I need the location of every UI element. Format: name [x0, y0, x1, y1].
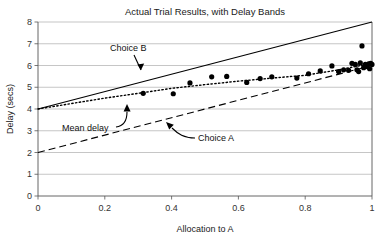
y-tick-label: 6	[27, 61, 32, 71]
y-tick-label: 3	[27, 126, 32, 136]
x-tick-label: 0.4	[165, 203, 178, 213]
data-point	[269, 74, 274, 79]
data-point	[318, 68, 323, 73]
data-point	[336, 69, 341, 74]
y-tick-label: 5	[27, 82, 32, 92]
data-point	[224, 74, 229, 79]
data-point	[346, 68, 351, 73]
data-point	[329, 63, 334, 68]
y-tick-label: 7	[27, 39, 32, 49]
y-tick-label: 4	[27, 104, 32, 114]
y-tick-label: 0	[27, 191, 32, 201]
data-point	[187, 80, 192, 85]
y-tick-label: 1	[27, 169, 32, 179]
annotation-label-choice-b: Choice B	[110, 43, 147, 53]
data-point	[369, 62, 374, 67]
chart-title: Actual Trial Results, with Delay Bands	[125, 6, 285, 17]
y-axis-title: Delay (secs)	[5, 84, 15, 134]
x-tick-label: 0.8	[299, 203, 312, 213]
y-tick-label: 2	[27, 148, 32, 158]
data-point	[358, 60, 363, 65]
annotation-label-choice-a: Choice A	[198, 133, 234, 143]
data-point	[141, 91, 146, 96]
data-point	[294, 76, 299, 81]
chart-container: Actual Trial Results, with Delay Bands 0…	[0, 0, 385, 237]
x-tick-label: 1	[369, 203, 374, 213]
data-point	[356, 69, 361, 74]
data-point	[244, 80, 249, 85]
data-point	[341, 67, 346, 72]
chart-background	[0, 0, 385, 237]
data-point	[353, 62, 358, 67]
data-point	[209, 74, 214, 79]
data-point	[359, 43, 364, 48]
x-tick-label: 0.2	[99, 203, 112, 213]
data-point	[171, 91, 176, 96]
trial-results-scatter-chart: Actual Trial Results, with Delay Bands 0…	[0, 0, 385, 237]
data-point	[258, 76, 263, 81]
x-tick-label: 0.6	[232, 203, 245, 213]
data-point	[306, 71, 311, 76]
y-tick-label: 8	[27, 17, 32, 27]
x-axis-title: Allocation to A	[176, 224, 233, 234]
annotation-label-mean-delay: Mean delay	[62, 123, 109, 133]
x-tick-label: 0	[35, 203, 40, 213]
